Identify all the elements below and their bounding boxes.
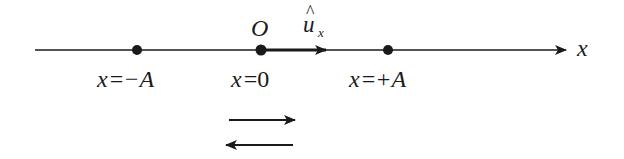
unit-vector-hat: ^ <box>306 2 315 22</box>
label-zero: x=0 <box>230 66 269 92</box>
point-minus-A <box>132 45 142 55</box>
svg-text:x=0: x=0 <box>230 66 269 92</box>
x-axis-label: x <box>576 35 588 61</box>
svg-text:x=+A: x=+A <box>348 66 406 92</box>
svg-text:x=−A: x=−A <box>96 66 154 92</box>
origin-label: O <box>251 15 268 41</box>
unit-vector-subscript: x <box>317 25 324 40</box>
label-minus-A: x=−A <box>96 66 154 92</box>
label-plus-A: x=+A <box>348 66 406 92</box>
point-plus-A <box>383 45 393 55</box>
oscillation-diagram: x O u ^ x x=−A x=0 x=+A <box>0 0 624 159</box>
point-origin <box>256 45 267 56</box>
